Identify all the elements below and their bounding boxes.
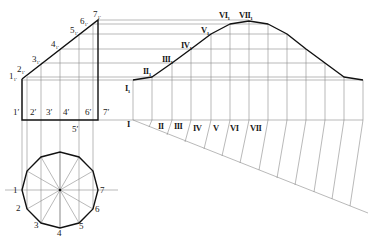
svg-text:V1: V1 — [201, 25, 210, 36]
svg-text:7: 7 — [100, 185, 105, 195]
slanted-generator-lines — [133, 120, 368, 213]
svg-text:VII1: VII1 — [239, 10, 253, 21]
svg-text:4′: 4′ — [63, 107, 70, 117]
svg-text:V: V — [213, 123, 220, 133]
svg-text:4: 4 — [57, 228, 62, 238]
svg-text:IV: IV — [193, 123, 203, 133]
svg-text:VII: VII — [250, 123, 262, 133]
svg-text:II1: II1 — [143, 66, 152, 77]
svg-text:1: 1 — [13, 185, 18, 195]
svg-text:7′: 7′ — [103, 107, 110, 117]
svg-text:6: 6 — [95, 204, 100, 214]
svg-text:1′: 1′ — [13, 107, 20, 117]
svg-text:I1: I1 — [125, 83, 131, 94]
svg-text:VI: VI — [230, 123, 240, 133]
development-generator-lines — [133, 21, 363, 120]
development-top-curve — [133, 21, 363, 80]
svg-text:II: II — [158, 121, 165, 131]
development-base-labels: I II III IV V VI VII — [127, 119, 262, 133]
svg-text:6′: 6′ — [85, 107, 92, 117]
svg-text:51': 51' — [70, 25, 78, 36]
svg-text:III1: III1 — [162, 54, 173, 65]
svg-text:IV1: IV1 — [181, 40, 192, 51]
svg-text:5: 5 — [79, 221, 84, 231]
front-view-top-labels: 11' 21' 31' 41' 51' 61' 71' — [9, 9, 101, 82]
svg-text:2′: 2′ — [30, 107, 37, 117]
svg-text:21': 21' — [17, 64, 25, 75]
svg-text:2: 2 — [16, 203, 21, 213]
top-view-center-point — [59, 189, 62, 192]
development-curve-labels: I1 II1 III1 IV1 V1 VI1 VII1 — [125, 10, 253, 94]
svg-text:71': 71' — [93, 9, 101, 20]
svg-text:61': 61' — [80, 16, 88, 27]
svg-text:III: III — [174, 121, 184, 131]
svg-text:3: 3 — [34, 220, 39, 230]
svg-text:3′: 3′ — [46, 107, 53, 117]
sheet-metal-development-diagram: 11' 21' 31' 41' 51' 61' 71' 1′ 2′ 3′ 4′ … — [0, 0, 370, 240]
svg-text:11': 11' — [9, 71, 17, 82]
svg-text:31': 31' — [32, 54, 40, 65]
svg-text:5′: 5′ — [72, 124, 79, 134]
svg-text:VI1: VI1 — [219, 10, 230, 21]
horizontal-projection-lines — [22, 20, 363, 120]
svg-text:I: I — [127, 119, 131, 129]
svg-text:41': 41' — [51, 39, 59, 50]
